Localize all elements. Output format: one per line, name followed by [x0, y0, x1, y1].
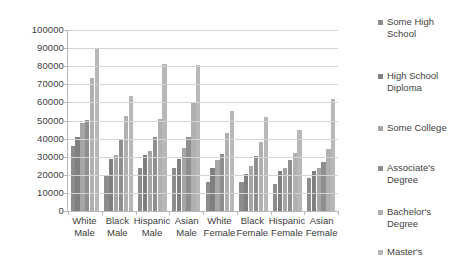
- x-axis-label-line: White: [203, 215, 236, 227]
- y-axis-tick: [64, 30, 68, 31]
- y-axis-tick-label: 20000: [37, 170, 64, 180]
- bar: [148, 151, 152, 211]
- legend-swatch-icon: [378, 20, 383, 25]
- legend-label: Some College: [387, 122, 447, 134]
- bar: [225, 133, 229, 211]
- x-axis-label-line: Female: [203, 227, 236, 239]
- y-axis-tick-label: 30000: [37, 152, 64, 162]
- bar: [331, 99, 335, 211]
- bar: [177, 159, 181, 211]
- legend-swatch-icon: [378, 210, 383, 215]
- x-axis-category-label: AsianFemale: [305, 215, 338, 238]
- legend-label: Bachelor's Degree: [387, 206, 431, 229]
- bar: [215, 160, 219, 211]
- bar: [321, 162, 325, 211]
- gridline: [68, 157, 338, 158]
- bar: [312, 171, 316, 211]
- bar: [85, 120, 89, 211]
- legend-swatch-icon: [378, 74, 383, 79]
- x-axis-label-line: Male: [170, 227, 203, 239]
- x-axis-category-label: HispanicMale: [134, 215, 170, 238]
- plot-area: [68, 30, 338, 211]
- bar: [259, 142, 263, 211]
- y-axis-tick-label: 90000: [37, 43, 64, 53]
- x-axis-label-line: Black: [236, 215, 269, 227]
- bar: [80, 123, 84, 211]
- bar: [254, 156, 258, 211]
- x-axis-category-label: BlackFemale: [236, 215, 269, 238]
- gridline: [68, 66, 338, 67]
- x-axis-category-labels: WhiteMaleBlackMaleHispanicMaleAsianMaleW…: [68, 215, 338, 238]
- bar: [124, 116, 128, 211]
- bar-chart: 0100002000030000400005000060000700008000…: [0, 0, 463, 261]
- gridline: [68, 84, 338, 85]
- gridline: [68, 121, 338, 122]
- legend-swatch-icon: [378, 250, 383, 255]
- y-axis-tick: [64, 48, 68, 49]
- bar: [95, 48, 99, 211]
- bar: [109, 159, 113, 211]
- bar: [297, 130, 301, 211]
- legend-label: Some High School: [387, 16, 434, 39]
- x-axis-label-line: Asian: [170, 215, 203, 227]
- y-axis-tick-labels: 0100002000030000400005000060000700008000…: [8, 24, 64, 212]
- bar: [114, 155, 118, 211]
- legend-item[interactable]: Some High School: [378, 16, 434, 39]
- legend-item[interactable]: Master's: [378, 246, 423, 258]
- y-axis-tick: [64, 175, 68, 176]
- y-axis-tick-label: 60000: [37, 98, 64, 108]
- y-axis-tick: [64, 139, 68, 140]
- x-axis-category-label: HispanicFemale: [269, 215, 305, 238]
- gridline: [68, 48, 338, 49]
- legend-item[interactable]: Bachelor's Degree: [378, 206, 431, 229]
- x-axis-label-line: Male: [134, 227, 170, 239]
- gridline: [68, 139, 338, 140]
- x-axis-label-line: Female: [305, 227, 338, 239]
- chart-legend: Some High SchoolHigh School DiplomaSome …: [378, 12, 463, 252]
- bar: [206, 182, 210, 211]
- bar: [230, 111, 234, 211]
- bar: [220, 154, 224, 211]
- bar: [326, 149, 330, 211]
- x-axis-label-line: Hispanic: [134, 215, 170, 227]
- bar: [239, 182, 243, 211]
- bar: [264, 117, 268, 211]
- y-axis-tick: [64, 102, 68, 103]
- y-axis-tick-label: 70000: [37, 80, 64, 90]
- bar: [278, 171, 282, 211]
- x-axis-tick: [338, 211, 339, 215]
- gridline: [68, 102, 338, 103]
- legend-label: High School Diploma: [387, 70, 438, 93]
- y-axis-tick-label: 100000: [32, 25, 64, 35]
- x-axis-label-line: Male: [101, 227, 134, 239]
- x-axis-category-label: WhiteFemale: [203, 215, 236, 238]
- x-axis-category-label: AsianMale: [170, 215, 203, 238]
- gridline: [68, 175, 338, 176]
- bar: [158, 119, 162, 211]
- x-axis-category-label: BlackMale: [101, 215, 134, 238]
- bar: [288, 160, 292, 211]
- x-axis-label-line: Asian: [305, 215, 338, 227]
- legend-swatch-icon: [378, 166, 383, 171]
- bar: [249, 166, 253, 211]
- bar: [307, 178, 311, 211]
- gridline: [68, 30, 338, 31]
- y-axis-tick: [64, 193, 68, 194]
- y-axis-tick: [64, 66, 68, 67]
- x-axis-category-label: WhiteMale: [68, 215, 101, 238]
- legend-item[interactable]: High School Diploma: [378, 70, 438, 93]
- y-axis-tick-label: 80000: [37, 61, 64, 71]
- bar: [273, 184, 277, 211]
- legend-swatch-icon: [378, 126, 383, 131]
- x-axis-label-line: Male: [68, 227, 101, 239]
- legend-label: Master's: [387, 246, 423, 258]
- y-axis-tick: [64, 157, 68, 158]
- x-axis-label-line: White: [68, 215, 101, 227]
- x-axis-label-line: Black: [101, 215, 134, 227]
- legend-item[interactable]: Associate's Degree: [378, 162, 435, 185]
- bar: [71, 146, 75, 211]
- gridline: [68, 193, 338, 194]
- bar: [90, 78, 94, 211]
- legend-item[interactable]: Some College: [378, 122, 447, 134]
- y-axis-tick-label: 10000: [37, 188, 64, 198]
